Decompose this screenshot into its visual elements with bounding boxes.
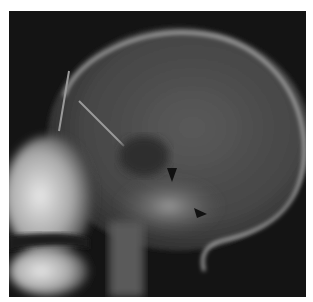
mandible [9, 246, 89, 296]
xray-image [9, 11, 306, 297]
skull-radiograph [9, 11, 306, 297]
cervical-spine [109, 221, 144, 297]
